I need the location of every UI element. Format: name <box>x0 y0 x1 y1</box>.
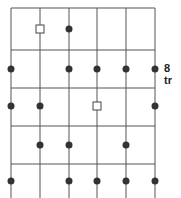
dot-marker <box>66 66 73 73</box>
grid-diagram <box>0 0 181 198</box>
dot-marker <box>66 26 73 33</box>
dot-marker <box>37 142 44 149</box>
square-marker <box>36 25 44 33</box>
dot-marker <box>152 103 159 110</box>
dot-marker <box>8 103 15 110</box>
dot-marker <box>123 142 130 149</box>
row-label: 8 tr <box>164 62 181 86</box>
dot-marker <box>94 66 101 73</box>
dot-marker <box>8 66 15 73</box>
dot-marker <box>152 178 159 185</box>
dot-marker <box>66 142 73 149</box>
dot-marker <box>94 178 101 185</box>
dot-marker <box>8 178 15 185</box>
square-marker <box>93 102 101 110</box>
dot-marker <box>123 178 130 185</box>
dot-marker <box>123 66 130 73</box>
dot-marker <box>152 66 159 73</box>
dot-marker <box>37 103 44 110</box>
dot-marker <box>66 178 73 185</box>
